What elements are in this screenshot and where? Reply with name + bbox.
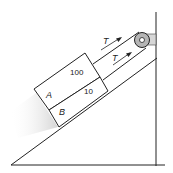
tension-label-upper: T [103,36,110,46]
tension-arrowhead-upper [116,37,122,42]
diagram-canvas: T T 100 10 A B [0,0,173,173]
block-b-label: B [59,107,65,117]
block-a-mass-label: 100 [70,68,84,77]
block-b-mass-label: 10 [84,87,93,96]
tension-arrowhead-lower [126,52,132,57]
pulley-axle [140,38,145,43]
incline-pulley-diagram: T T 100 10 A B [0,0,173,173]
block-a-label: A [45,90,52,100]
